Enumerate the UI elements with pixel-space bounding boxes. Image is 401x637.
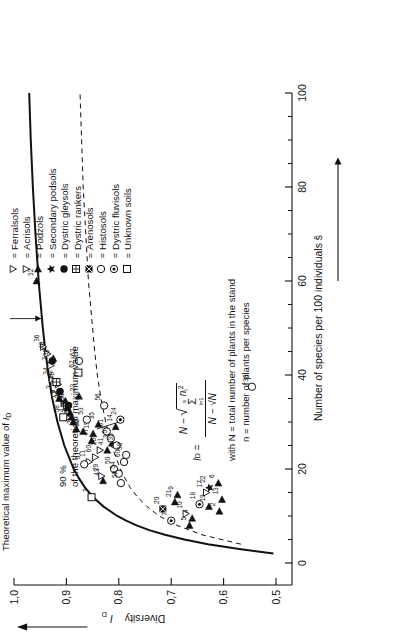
diversity-formula: ID = N − √sΣi=1ni2 N − √N with N = total…	[176, 279, 253, 461]
legend: =Ferralsols=Acrisols=Podzols=Secondary p…	[8, 168, 134, 277]
circle-dot-center-icon	[170, 519, 173, 522]
legend-row[interactable]: =Arenosols	[84, 168, 97, 277]
legend-row[interactable]: =Podzols	[33, 168, 46, 277]
data-point-label: 60	[85, 445, 92, 453]
legend-label: Acrisols	[21, 216, 32, 250]
y-tick-label: 0,7	[165, 590, 177, 605]
circle-dot-center-icon	[112, 267, 115, 270]
scatter-plot-svg: 0204060801000,50,60,70,80,91,0Number of …	[14, 93, 314, 563]
circle-open-icon	[120, 458, 127, 465]
y-axis-title: Diversity ID	[101, 610, 165, 625]
data-point-label: 43	[93, 468, 100, 476]
data-point-label: 59	[111, 470, 118, 478]
radical-icon: √	[176, 409, 204, 416]
circle-filled-icon	[60, 265, 67, 272]
circle-open-icon	[83, 416, 90, 423]
formula-lhs: I	[192, 458, 203, 461]
square-open-icon	[123, 266, 130, 273]
data-point-label: 21	[165, 489, 172, 497]
data-point-symbol	[104, 447, 111, 454]
data-point-label: 2	[209, 502, 216, 506]
data-point-label: 60	[114, 449, 121, 457]
data-point-label: 5	[180, 516, 187, 520]
data-point-symbol	[10, 266, 16, 273]
data-point-symbol	[215, 479, 222, 486]
formula-sqrt: √sΣi=1ni2	[176, 383, 204, 415]
y-axis-title-text: Diversity	[124, 613, 165, 625]
y-axis-arrow-head	[17, 624, 27, 631]
circle-filled-icon	[49, 357, 56, 364]
legend-symbol-svg	[108, 263, 120, 275]
max-curve-symbol: I	[0, 418, 11, 421]
legend-label: Dystric gleysols	[59, 183, 70, 250]
y-tick-label: 0,5	[270, 590, 282, 605]
legend-row[interactable]: =Dystric fluvisols	[109, 168, 122, 277]
data-point-symbol	[189, 515, 196, 522]
triangle-right-filled-icon	[104, 447, 111, 454]
legend-symbol-svg	[83, 263, 95, 275]
legend-symbol-svg	[95, 263, 107, 275]
y-axis-title-sub: D	[101, 610, 107, 619]
data-point-symbol	[83, 416, 90, 423]
data-point-symbol	[88, 494, 95, 501]
data-point-label: 7	[82, 488, 89, 492]
data-point-label: 20	[153, 496, 160, 504]
circle-open-icon	[122, 451, 129, 458]
data-point-symbol	[23, 266, 29, 273]
data-point-label: 41	[97, 438, 104, 446]
legend-equals: =	[60, 250, 70, 261]
legend-row[interactable]: =Histosols	[96, 168, 109, 277]
x-axis-arrow-head	[335, 158, 342, 165]
legend-label: Unknown soils	[122, 188, 133, 250]
triangle-right-filled-icon	[90, 430, 97, 437]
legend-symbol	[121, 261, 135, 277]
triangle-down-open-icon	[10, 266, 16, 273]
data-point-symbol	[174, 491, 181, 498]
x-tick-label: 0	[296, 560, 308, 566]
sigma-operator: sΣi=1	[181, 397, 204, 405]
data-point-symbol	[73, 266, 80, 273]
data-point-symbol	[100, 402, 107, 409]
formula-numerator-lead: N −	[178, 418, 189, 434]
x-tick-label: 100	[296, 84, 308, 102]
data-point-label: 56	[94, 393, 101, 401]
formula-note-n: with N = total number of plants in the s…	[226, 279, 239, 461]
sigma-term: n	[177, 391, 188, 397]
star-filled-icon	[47, 265, 55, 273]
legend-row[interactable]: =Dystric gleysols	[58, 168, 71, 277]
ninety-percent-label: 90 %	[57, 346, 69, 487]
legend-row[interactable]: =Dystric rankers	[71, 168, 84, 277]
triangle-right-filled-icon	[215, 479, 222, 486]
data-point-symbol	[122, 451, 129, 458]
data-point-label: 7	[41, 357, 48, 361]
legend-row[interactable]: =Ferralsols	[8, 168, 21, 277]
y-axis-title-symbol: I	[110, 613, 113, 625]
sigma-bottom: i=1	[198, 397, 204, 405]
data-point-symbol	[186, 522, 193, 529]
formula-lhs-sub: D	[194, 453, 201, 458]
triangle-down-open-icon	[23, 266, 29, 273]
legend-row[interactable]: =Acrisols	[21, 168, 34, 277]
max-curve-label: Theoretical maximum value of	[0, 423, 11, 551]
max-curve-sub: D	[5, 413, 12, 418]
data-point-label: 22	[199, 475, 206, 483]
x-tick-label: 20	[296, 463, 308, 475]
data-point-label: 54	[109, 461, 116, 469]
ninety-percent-sublabel: of the theoretical maximum value	[69, 346, 81, 487]
y-tick-label: 1,0	[8, 590, 20, 605]
legend-symbol-svg	[45, 263, 57, 275]
formula-equals: =	[192, 444, 203, 450]
legend-row[interactable]: =Unknown soils	[121, 168, 134, 277]
data-point-label: 18	[189, 492, 196, 500]
y-tick-label: 0,8	[112, 590, 124, 605]
legend-symbol-svg	[32, 263, 44, 275]
x-axis-title: Number of species per 100 individuals ŝ	[312, 235, 324, 421]
data-point-symbol	[47, 265, 55, 273]
legend-row[interactable]: =Secondary podsols	[46, 168, 59, 277]
square-open-icon	[88, 494, 95, 501]
legend-equals: =	[22, 250, 32, 261]
data-point-label: 9	[167, 486, 174, 490]
formula-radicand: sΣi=1ni2	[176, 383, 204, 408]
sigma-term-sub: i	[182, 389, 189, 391]
triangle-right-filled-icon	[174, 491, 181, 498]
